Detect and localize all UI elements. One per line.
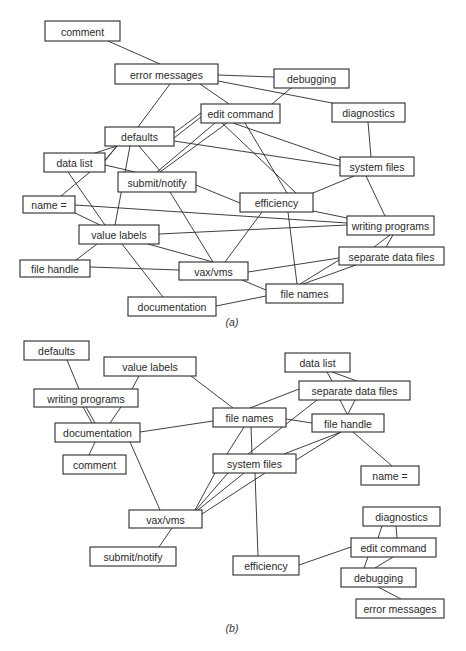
edge [174, 141, 340, 166]
node-label: file names [226, 412, 274, 424]
edge [255, 473, 258, 556]
node-vax-vms: vax/vms [129, 510, 202, 528]
node-label: efficiency [244, 560, 288, 572]
node-submit-notify: submit/notify [118, 172, 196, 192]
node-name-eq: name = [361, 466, 419, 485]
edge [353, 432, 392, 466]
node-value-labels: value labels [79, 225, 159, 244]
node-label: vax/vms [146, 514, 185, 526]
edge [378, 526, 382, 538]
edge [108, 41, 160, 64]
edge [332, 372, 357, 381]
node-submit-notify: submit/notify [90, 547, 176, 566]
node-file-handle: file handle [312, 414, 384, 432]
node-label: writing programs [351, 220, 430, 232]
node-label: name = [372, 470, 407, 482]
edge [374, 235, 390, 247]
edge [225, 212, 262, 262]
panel-a-caption: (a) [226, 316, 239, 328]
node-error-messages: error messages [115, 64, 218, 84]
node-label: efficiency [255, 197, 299, 209]
edge [174, 117, 201, 138]
node-label: edit command [361, 542, 427, 554]
edge [159, 528, 172, 547]
node-writing-programs: writing programs [347, 216, 434, 235]
node-diagnostics: diagnostics [332, 103, 405, 122]
node-label: comment [73, 459, 116, 471]
edge [218, 75, 274, 77]
node-debugging: debugging [274, 69, 349, 88]
edge [368, 122, 371, 157]
node-writing-programs: writing programs [34, 389, 138, 407]
panel-b-nodes: defaultsvalue labelsdata listwriting pro… [24, 341, 444, 618]
node-separate-data-files: separate data files [339, 247, 444, 265]
edge [130, 442, 160, 510]
edge [76, 244, 97, 260]
node-label: data list [299, 357, 335, 369]
node-system-files: system files [340, 157, 414, 176]
node-file-names: file names [266, 284, 343, 303]
node-defaults: defaults [24, 341, 89, 360]
edge [110, 407, 121, 423]
node-label: comment [61, 26, 104, 38]
edge [75, 213, 100, 225]
node-debugging: debugging [341, 568, 416, 587]
edge [191, 376, 233, 408]
edge [348, 400, 355, 414]
node-error-messages: error messages [356, 599, 444, 618]
node-vax-vms: vax/vms [179, 262, 248, 280]
edge [327, 372, 332, 381]
node-system-files: system files [213, 454, 296, 473]
edge [61, 172, 90, 196]
panel-a: commenterror messagesdebuggingedit comma… [20, 21, 444, 328]
edge [245, 123, 287, 193]
node-label: error messages [130, 69, 203, 81]
edge [174, 113, 201, 133]
edge [378, 587, 401, 599]
edge [375, 557, 393, 568]
node-label: separate data files [349, 251, 435, 263]
edge [105, 165, 135, 172]
node-label: value labels [91, 229, 146, 241]
edge [300, 260, 339, 284]
edge [288, 212, 297, 284]
edge [296, 432, 341, 460]
edge [284, 432, 341, 454]
edge [200, 84, 229, 104]
edge [159, 225, 347, 234]
edge [248, 258, 339, 272]
node-label: writing programs [46, 393, 125, 405]
node-label: debugging [287, 73, 336, 85]
node-label: submit/notify [104, 551, 164, 563]
edge [227, 427, 244, 454]
edge [139, 146, 161, 172]
edge [140, 421, 213, 432]
edge [303, 265, 356, 284]
node-label: submit/notify [128, 177, 188, 189]
node-separate-data-files: separate data files [299, 381, 410, 400]
node-label: file names [281, 288, 329, 300]
edge [122, 244, 163, 297]
edge [216, 296, 266, 306]
node-value-labels: value labels [104, 357, 196, 376]
node-label: file handle [324, 418, 372, 430]
node-diagnostics: diagnostics [363, 507, 440, 526]
node-label: defaults [38, 345, 75, 357]
node-label: error messages [364, 603, 437, 615]
node-label: debugging [354, 572, 403, 584]
edge [67, 360, 79, 389]
node-defaults: defaults [105, 127, 174, 146]
node-label: name = [31, 199, 66, 211]
node-label: diagnostics [375, 511, 428, 523]
node-label: vax/vms [194, 266, 233, 278]
edge [90, 267, 179, 270]
edge [251, 427, 252, 454]
edge [89, 442, 95, 455]
node-label: separate data files [312, 385, 398, 397]
node-documentation: documentation [128, 297, 216, 316]
edge [366, 176, 385, 216]
node-data-list: data list [44, 153, 105, 172]
edge [313, 176, 354, 193]
edge [272, 88, 291, 104]
node-label: value labels [122, 361, 177, 373]
